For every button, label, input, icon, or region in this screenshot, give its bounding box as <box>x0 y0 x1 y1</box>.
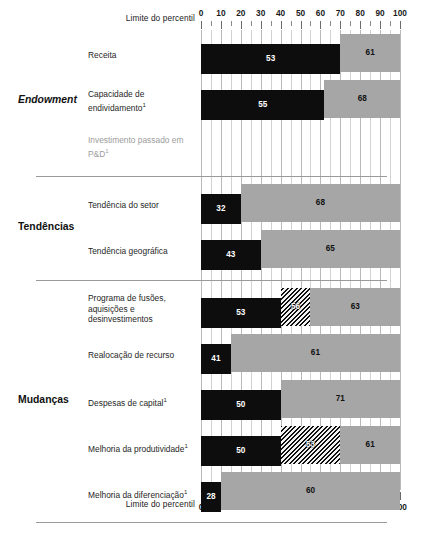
x-axis-tick <box>380 21 381 29</box>
row-label-text: Investimento passado em P&D <box>88 135 183 158</box>
chart-row: Investimento passado em P&D1 <box>0 124 423 170</box>
bar-segment-gray: 61 <box>231 334 400 372</box>
x-axis-tick-label: 20 <box>236 8 245 18</box>
row-label-text: Capacidade de endividamento <box>88 89 144 112</box>
x-axis-tick-label: 10 <box>216 8 225 18</box>
section-divider <box>36 280 387 281</box>
row-label-footnote: 1 <box>142 102 145 108</box>
x-axis-ticks-top <box>201 21 400 29</box>
bar-segment-gray: 65 <box>261 230 400 268</box>
x-axis-caption-bottom: Limite do percentil <box>126 499 195 509</box>
x-axis-tick <box>310 21 311 26</box>
row-label-text: Programa de fusões, aquisições e desinve… <box>88 293 166 324</box>
row-label: Capacidade de endividamento1 <box>88 89 196 113</box>
row-label-text: Despesas de capital <box>88 398 163 408</box>
x-axis-tick <box>241 21 242 29</box>
row-label: Realocação de recurso <box>88 350 196 361</box>
row-label-text: Receita <box>88 50 116 60</box>
bar-segment-value: 56 <box>281 303 311 311</box>
x-axis-tick-label: 70 <box>336 8 345 18</box>
bar-segment-gray: 68 <box>324 80 400 118</box>
row-label: Melhoria da produtividade1 <box>88 441 196 454</box>
bar-segment-value: 50 <box>201 401 281 409</box>
row-label-text: Melhoria da produtividade <box>88 444 184 454</box>
bar-segment-value: 53 <box>281 441 341 449</box>
bar-segment-gray: 63 <box>310 288 400 326</box>
bar-segment-value: 68 <box>241 199 400 207</box>
section-title: Tendências <box>18 221 74 232</box>
x-axis-tick-label: 60 <box>316 8 325 18</box>
x-axis-tick <box>360 21 361 29</box>
x-axis-caption-top: Limite do percentil <box>126 13 195 23</box>
bar-segment-black: 53 <box>201 298 281 328</box>
bar-segment-value: 53 <box>201 309 281 317</box>
bar-segment-value: 55 <box>201 101 324 109</box>
x-axis-tick <box>251 21 252 26</box>
chart-row: Programa de fusões, aquisições e desinve… <box>0 286 423 332</box>
bar-segment-value: 61 <box>340 49 400 57</box>
x-axis-tick-label: 100 <box>393 8 407 18</box>
x-axis-tick <box>291 21 292 26</box>
bar-segment-black: 32 <box>201 194 241 224</box>
bar-segment-value: 41 <box>201 355 231 363</box>
bar-segment-value: 68 <box>324 95 400 103</box>
bar-segment-black: 50 <box>201 390 281 420</box>
row-label-text: Realocação de recurso <box>88 350 174 360</box>
bar-segment-value: 50 <box>201 447 281 455</box>
x-axis-tick-labels-top: 0102030405060708090100 <box>201 8 400 19</box>
bar-segment-gray: 61 <box>340 34 400 72</box>
x-axis-tick <box>350 21 351 26</box>
x-axis-tick <box>320 21 321 29</box>
x-axis-tick <box>271 21 272 26</box>
chart-row: Receita5361 <box>0 32 423 78</box>
row-label: Investimento passado em P&D1 <box>88 135 196 159</box>
row-label: Receita <box>88 50 196 61</box>
bar-segment-value: 71 <box>281 395 400 403</box>
row-label-footnote: 1 <box>163 397 166 403</box>
bar-segment-value: 28 <box>201 493 221 501</box>
row-label-text: Tendência do setor <box>88 200 159 210</box>
bar-segment-black: 55 <box>201 90 324 120</box>
row-label-footnote: 1 <box>105 148 108 154</box>
x-axis-tick-label: 50 <box>296 8 305 18</box>
x-axis-tick <box>261 21 262 29</box>
x-axis-tick <box>221 21 222 29</box>
bar-segment-black: 50 <box>201 436 281 466</box>
x-axis-tick <box>390 21 391 26</box>
x-axis-tick-label: 0 <box>199 8 204 18</box>
bar-segment-value: 65 <box>261 245 400 253</box>
x-axis-tick <box>211 21 212 26</box>
section-divider <box>36 176 387 177</box>
section-title: Mudanças <box>18 394 69 405</box>
bar-segment-gray: 60 <box>221 472 400 510</box>
bar-segment-gray: 68 <box>241 184 400 222</box>
x-axis-tick <box>301 21 302 29</box>
x-axis-tick <box>330 21 331 26</box>
row-label: Tendência do setor <box>88 200 196 211</box>
section-title: Endowment <box>18 94 77 105</box>
row-label-footnote: 1 <box>184 443 187 449</box>
x-axis-top: Limite do percentil010203040506070809010… <box>0 6 423 32</box>
x-axis-tick-label: 90 <box>375 8 384 18</box>
row-label: Tendência geográfica <box>88 246 196 257</box>
bar-segment-value: 63 <box>310 303 400 311</box>
bar-segment-gray: 61 <box>340 426 400 464</box>
x-axis-tick <box>231 21 232 26</box>
x-axis-tick <box>370 21 371 26</box>
bar-segment-black: 43 <box>201 240 261 270</box>
percentile-bar-chart: Limite do percentil010203040506070809010… <box>0 0 423 534</box>
row-label: Programa de fusões, aquisições e desinve… <box>88 293 196 325</box>
bar-segment-value: 61 <box>231 349 400 357</box>
bar-segment-black: 53 <box>201 44 340 74</box>
bar-segment-value: 53 <box>201 55 340 63</box>
bar-segment-value: 60 <box>221 487 400 495</box>
footer-divider <box>36 522 387 523</box>
chart-row: Tendência geográfica4365 <box>0 228 423 274</box>
bar-segment-black: 28 <box>201 482 221 512</box>
bar-segment-value: 32 <box>201 205 241 213</box>
bar-segment-gray: 71 <box>281 380 400 418</box>
bar-segment-value: 61 <box>340 441 400 449</box>
x-axis-tick <box>400 21 401 29</box>
chart-row: Realocação de recurso4161 <box>0 332 423 378</box>
bar-segment-hatch: 53 <box>281 426 341 464</box>
